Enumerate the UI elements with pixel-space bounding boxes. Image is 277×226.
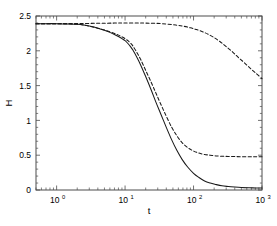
x-tick-label: 10 [256,195,266,205]
figure-container: 00.511.522.5100101102103tH [0,0,277,226]
x-tick-exponent: 3 [268,194,271,200]
upper-dashed-curve [36,23,262,79]
y-tick-label: 2 [26,46,31,56]
chart-plot: 00.511.522.5100101102103tH [0,0,277,226]
x-tick-label: 10 [50,195,60,205]
x-tick-label: 10 [187,195,197,205]
lower-dashed-curve [36,24,262,157]
y-tick-label: 0 [26,185,31,195]
y-tick-label: 0.5 [19,150,31,160]
y-tick-label: 2.5 [19,11,31,21]
y-tick-label: 1.5 [19,81,31,91]
x-axis-title: t [148,205,151,216]
y-axis-title: H [3,99,14,106]
x-tick-exponent: 0 [62,194,65,200]
x-tick-exponent: 1 [131,194,134,200]
x-tick-label: 10 [119,195,129,205]
y-tick-label: 1 [26,116,31,126]
x-tick-exponent: 2 [199,194,202,200]
plot-frame [36,16,262,190]
